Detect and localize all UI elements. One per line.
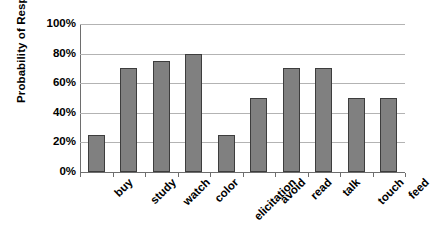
bar-color [185,54,202,172]
bar-feed [380,98,397,172]
bar-talk [315,68,332,172]
x-axis-label-talk: talk [340,176,363,199]
y-axis-tick-label: 100% [32,18,76,30]
bar-avoid [250,98,267,172]
y-axis-tick-label: 0% [32,166,76,178]
x-axis-label-feed: feed [406,176,431,201]
y-axis-tick-labels: 0%20%40%60%80%100% [26,24,76,173]
x-axis-label-color: color [212,176,240,204]
x-axis-label-watch: watch [181,176,213,208]
y-axis-tick-label: 80% [32,48,76,60]
y-axis-tick-label: 60% [32,77,76,89]
y-axis-tick-label: 40% [32,107,76,119]
y-axis-tick-label: 20% [32,137,76,149]
x-axis-label-touch: touch [375,176,406,207]
bar-read [283,68,300,172]
bar-study [120,68,137,172]
bar-touch [348,98,365,172]
bar-buy [88,135,105,172]
x-axis-category-labels: buystudywatchcolorelicitationavoidreadta… [80,176,420,240]
bar-elicitation [218,135,235,172]
x-axis-label-buy: buy [112,176,135,199]
bars-layer [80,24,405,172]
x-axis-label-study: study [148,176,178,206]
bar-watch [153,61,170,172]
x-axis-label-read: read [308,176,334,202]
